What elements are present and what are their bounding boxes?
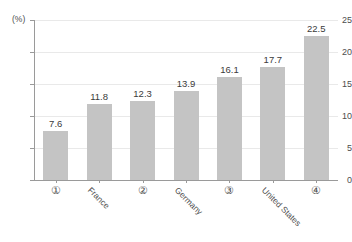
x-axis-category-label: ③ xyxy=(209,184,249,197)
y-axis-tick-mark xyxy=(30,180,34,181)
x-axis-tick-mark xyxy=(143,180,144,183)
bar-value-label: 17.7 xyxy=(253,54,293,65)
bar xyxy=(304,36,329,180)
x-axis-category-label: ② xyxy=(123,184,163,197)
y-axis-unit-label: (%) xyxy=(12,14,25,24)
x-axis-category-label: France xyxy=(86,185,112,211)
bar-value-label: 13.9 xyxy=(166,78,206,89)
bar xyxy=(43,131,68,180)
x-axis-tick-mark xyxy=(186,180,187,183)
bar xyxy=(174,91,199,180)
x-axis-category-label: ④ xyxy=(296,184,336,197)
bar-value-label: 22.5 xyxy=(296,23,336,34)
bar-value-label: 11.8 xyxy=(79,91,119,102)
x-axis-tick-mark xyxy=(99,180,100,183)
x-axis-tick-mark xyxy=(56,180,57,183)
bar xyxy=(260,67,285,180)
bar-value-label: 7.6 xyxy=(36,118,76,129)
bar xyxy=(87,104,112,180)
x-axis-tick-mark xyxy=(316,180,317,183)
bar-value-label: 12.3 xyxy=(123,88,163,99)
bar xyxy=(130,101,155,180)
bar-value-label: 16.1 xyxy=(209,64,249,75)
bar-chart: (%) 0510152025 7.611.812.313.916.117.722… xyxy=(0,0,352,242)
x-axis-category-label: Germany xyxy=(173,185,205,217)
bar xyxy=(217,77,242,180)
x-axis-tick-mark xyxy=(229,180,230,183)
x-axis-tick-mark xyxy=(273,180,274,183)
x-axis-category-label: ① xyxy=(36,184,76,197)
